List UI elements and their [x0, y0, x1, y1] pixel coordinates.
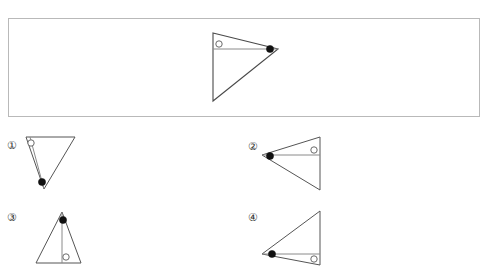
stimulus-frame — [8, 18, 480, 117]
open-circle-marker — [28, 140, 34, 146]
option-label-text-3: ③ — [7, 210, 17, 225]
filled-dot-marker — [266, 45, 273, 52]
triangle-outline — [262, 137, 320, 190]
puzzle-page: ① ② ③ ④ — [0, 0, 490, 273]
filled-dot-marker — [59, 216, 66, 223]
open-circle-marker — [216, 41, 222, 47]
filled-dot-marker — [266, 152, 273, 159]
triangle-outline — [213, 33, 278, 101]
filled-dot-marker — [38, 178, 45, 185]
filled-dot-marker — [268, 250, 275, 257]
option-label-3: ③ — [4, 210, 20, 226]
open-circle-marker — [311, 256, 317, 262]
reference-figure — [9, 19, 481, 118]
option-label-text-1: ① — [7, 138, 17, 153]
option-figure-2[interactable] — [254, 129, 328, 198]
triangle-outline — [36, 212, 81, 263]
option-figure-1[interactable] — [18, 129, 83, 197]
option-figure-4[interactable] — [254, 203, 328, 273]
open-circle-marker — [63, 254, 69, 260]
option-figure-3[interactable] — [28, 204, 89, 271]
open-circle-marker — [311, 147, 317, 153]
